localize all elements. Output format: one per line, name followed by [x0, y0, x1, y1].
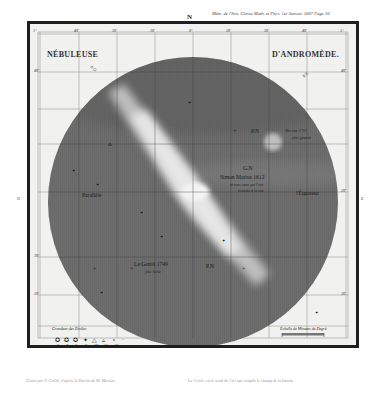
svg-text:⁂: ⁂: [108, 142, 112, 147]
title-right: D'ANDROMÈDE.: [272, 50, 339, 59]
right-tick-0: 40': [341, 68, 346, 73]
simon-marius-note-2: trouvée à la vue: [238, 188, 264, 193]
scale-bar: [282, 333, 324, 337]
star-chart-plate: ⁂ ✦ ✦ ✦ ✧ ✦ ✦ ✧ ✧ ✧ ✦ ✦ ✦ ✪ ✪ ✪ ✦ △ ▵ ⋆ …: [27, 21, 359, 348]
top-tick-7: 40': [302, 28, 307, 33]
equateur-label: l'Équateur: [296, 190, 319, 196]
messier-note: plus grande: [292, 135, 311, 140]
magnitude-8: 8: [75, 343, 77, 348]
top-tick-2: 30': [112, 28, 117, 33]
magnitude-6: 6: [57, 343, 59, 348]
parallele-label: Parallèle: [82, 192, 102, 198]
publication-note: Mém. de l'Inst. Classe Math. et Phys. 1e…: [212, 11, 330, 16]
top-tick-6: 30': [264, 28, 269, 33]
top-tick-5: 10': [226, 28, 231, 33]
magnitude-11: 11: [104, 343, 108, 348]
le-gentil-label: Le Gentil 1749: [134, 261, 168, 267]
right-tick-1: 20': [341, 188, 346, 193]
top-tick-8: 1°: [340, 28, 344, 33]
svg-text:·: ·: [122, 337, 124, 343]
pn-bottom-label: P.N: [206, 263, 214, 269]
magnitude-12: 12: [114, 343, 118, 348]
simon-marius-label: Simon Marius 1612: [220, 174, 264, 180]
magnitude-7: 7: [66, 343, 68, 348]
left-tick-0: 40': [34, 68, 39, 73]
svg-text:✦: ✦: [315, 310, 319, 315]
plate-caption: Le Cercle est le fond du Ciel qui rempli…: [188, 378, 293, 383]
top-tick-3: 10': [150, 28, 155, 33]
left-tick-2: 20': [34, 291, 39, 296]
title-left: NÉBULEUSE: [47, 50, 98, 59]
north-label: N: [187, 13, 192, 21]
top-tick-0: 1°: [33, 28, 37, 33]
gn-label: G.N: [243, 165, 252, 171]
top-tick-4: 0°: [189, 28, 193, 33]
companion-nebula: [264, 133, 282, 151]
pn-top-label: P.N: [251, 128, 259, 134]
simon-marius-note-1: et tous ceux qui l'ont: [230, 182, 263, 187]
magnitude-10: 10: [94, 343, 98, 348]
east-label: E: [361, 196, 363, 201]
engraver-credit: Gravé par F. Collin, d'après le Dessin d…: [26, 378, 115, 383]
le-gentil-note: plus belle: [145, 269, 160, 274]
left-tick-1: 30': [34, 253, 39, 258]
magnitude-9: 9: [85, 343, 87, 348]
messier-label: Messier 1757: [285, 128, 307, 133]
west-label: O: [17, 196, 20, 201]
magnitude-legend-title: Grandeur des Étoiles: [52, 326, 86, 331]
scale-title: Échelle de Minutes de Degré: [280, 326, 326, 331]
right-tick-2: 30': [341, 291, 346, 296]
top-tick-1: 40': [74, 28, 79, 33]
